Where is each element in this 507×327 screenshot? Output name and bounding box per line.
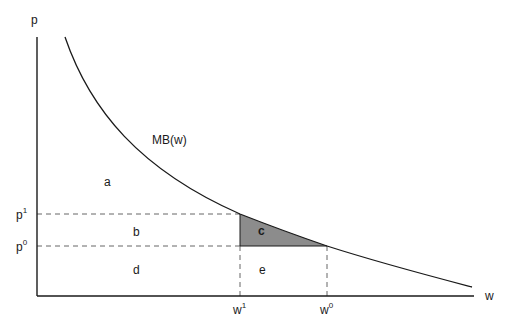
w1-sup: 1 (242, 301, 246, 310)
p0-base: p (16, 240, 23, 254)
p1-sup: 1 (23, 206, 27, 215)
region-b-label: b (133, 226, 140, 238)
region-d-label: d (133, 264, 140, 276)
p0-sup: 0 (23, 238, 27, 247)
w0-label: w0 (320, 303, 333, 316)
w1-label: w1 (233, 303, 246, 316)
region-a-label: a (104, 176, 111, 188)
p1-base: p (16, 208, 23, 222)
x-axis-label: w (485, 290, 494, 302)
mb-curve-label: MB(w) (152, 134, 187, 146)
p1-label: p1 (16, 208, 27, 221)
y-axis-label: p (31, 14, 38, 26)
w1-base: w (233, 303, 242, 317)
w0-base: w (320, 303, 329, 317)
p0-label: p0 (16, 240, 27, 253)
region-e-label: e (259, 264, 266, 276)
w0-sup: 0 (329, 301, 333, 310)
marginal-benefit-diagram (0, 0, 507, 327)
region-c-label: c (258, 225, 265, 237)
mb-curve (65, 37, 472, 287)
